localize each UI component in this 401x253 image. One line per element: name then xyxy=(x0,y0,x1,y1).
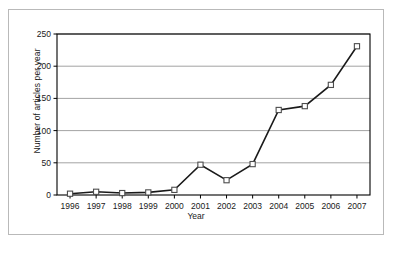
data-point-marker xyxy=(250,161,255,166)
x-tick-label: 2003 xyxy=(243,201,262,211)
y-axis-ticks: 050100150200250 xyxy=(37,29,57,200)
x-tick-label: 2001 xyxy=(191,201,210,211)
data-point-marker xyxy=(354,44,359,49)
x-tick-label: 1998 xyxy=(113,201,132,211)
plot-border xyxy=(57,34,370,195)
data-point-marker xyxy=(146,190,151,195)
plot-frame xyxy=(57,34,370,195)
data-line xyxy=(70,46,357,193)
series-line xyxy=(70,46,357,193)
x-tick-label: 2002 xyxy=(217,201,236,211)
x-tick-label: 1996 xyxy=(61,201,80,211)
data-point-marker xyxy=(172,187,177,192)
data-point-marker xyxy=(67,191,72,196)
figure-frame: Number of articles per year Year 0501001… xyxy=(8,9,384,235)
data-point-marker xyxy=(94,189,99,194)
x-tick-label: 1997 xyxy=(87,201,106,211)
data-point-marker xyxy=(120,190,125,195)
x-tick-label: 2005 xyxy=(295,201,314,211)
plot-area: 050100150200250 199619971998199920002001… xyxy=(9,10,385,236)
x-tick-label: 2004 xyxy=(269,201,288,211)
data-point-marker xyxy=(328,82,333,87)
x-tick-label: 2000 xyxy=(165,201,184,211)
y-tick-label: 150 xyxy=(37,93,51,103)
line-chart: Number of articles per year Year 0501001… xyxy=(9,10,383,234)
y-tick-label: 50 xyxy=(42,158,52,168)
y-tick-label: 250 xyxy=(37,29,51,39)
x-tick-label: 1999 xyxy=(139,201,158,211)
y-tick-label: 200 xyxy=(37,61,51,71)
y-tick-label: 100 xyxy=(37,126,51,136)
x-tick-label: 2007 xyxy=(347,201,366,211)
x-axis-ticks: 1996199719981999200020012002200320042005… xyxy=(61,195,367,211)
data-point-marker xyxy=(276,107,281,112)
gridlines xyxy=(57,34,370,163)
data-point-marker xyxy=(198,162,203,167)
data-point-marker xyxy=(302,104,307,109)
data-point-marker xyxy=(224,178,229,183)
y-tick-label: 0 xyxy=(46,190,51,200)
x-tick-label: 2006 xyxy=(321,201,340,211)
